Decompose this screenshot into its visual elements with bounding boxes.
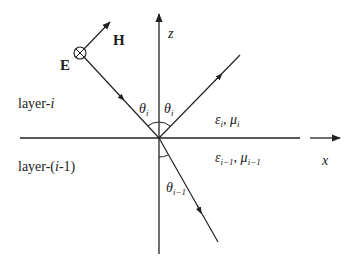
- lower-material-params: εi−1, μi−1: [215, 150, 261, 167]
- transmitted-ray-arrow: [197, 205, 200, 211]
- reflected-angle-label: θi: [164, 101, 174, 118]
- layer-i-label: layer-i: [18, 96, 54, 111]
- diagram-svg: H E z x layer-i layer-(i-1) θi θi θi−1 ε…: [0, 0, 354, 266]
- h-field-label: H: [113, 32, 125, 48]
- transmitted-angle-arc: [159, 155, 168, 157]
- z-axis-label: z: [167, 26, 174, 41]
- reflected-ray-arrow: [215, 76, 220, 81]
- h-field-arrow: [84, 22, 110, 49]
- incident-ray-arrow: [117, 93, 122, 98]
- upper-material-params: εi, μi: [215, 112, 240, 129]
- x-axis-label: x: [321, 153, 329, 168]
- layer-i-minus-1-label: layer-(i-1): [18, 159, 76, 175]
- incident-angle-arc: [148, 122, 159, 126]
- e-field-label: E: [60, 57, 70, 73]
- reflected-angle-arc: [159, 122, 170, 126]
- transmitted-angle-label: θi−1: [166, 180, 186, 197]
- diagram-canvas: H E z x layer-i layer-(i-1) θi θi θi−1 ε…: [0, 0, 354, 266]
- incident-angle-label: θi: [139, 101, 149, 118]
